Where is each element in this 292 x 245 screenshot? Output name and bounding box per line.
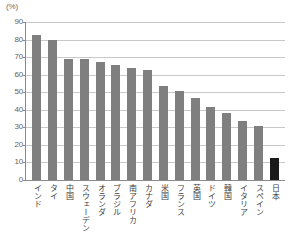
x-label-slot: 韓国: [219, 184, 235, 244]
x-axis-label-1: タイ: [49, 184, 57, 244]
bar-中国: [64, 59, 73, 180]
x-label-slot: 南アフリカ: [124, 184, 140, 244]
y-axis-unit-label: (%): [6, 2, 18, 12]
x-label-slot: スウェーデン: [76, 184, 92, 244]
x-axis-label-4: オランダ: [96, 184, 104, 244]
x-label-slot: ブラジル: [108, 184, 124, 244]
x-label-slot: オランダ: [92, 184, 108, 244]
y-tick-label-70: 70: [1, 53, 23, 61]
x-axis-label-14: スペイン: [254, 184, 262, 244]
x-axis-label-0: インド: [33, 184, 41, 244]
bar-米国: [159, 86, 168, 180]
x-axis-label-12: 韓国: [223, 184, 231, 244]
y-tick-label-40: 40: [1, 106, 23, 114]
bar-slot: [187, 22, 203, 180]
y-tick-label-60: 60: [1, 71, 23, 79]
bar-日本: [270, 158, 279, 180]
y-tick-label-30: 30: [1, 123, 23, 131]
x-axis-label-5: ブラジル: [112, 184, 120, 244]
bar-slot: [203, 22, 219, 180]
bar-slot: [140, 22, 156, 180]
y-tick-label-10: 10: [1, 158, 23, 166]
bar-ドイツ: [206, 107, 215, 180]
bar-slot: [45, 22, 61, 180]
bar-slot: [108, 22, 124, 180]
bar-イタリア: [238, 121, 247, 180]
x-label-slot: カナダ: [140, 184, 156, 244]
y-tick-label-80: 80: [1, 36, 23, 44]
bar-英国: [191, 98, 200, 181]
x-label-slot: ドイツ: [203, 184, 219, 244]
x-label-slot: 中国: [61, 184, 77, 244]
bar-slot: [29, 22, 45, 180]
x-axis-label-7: カナダ: [144, 184, 152, 244]
x-axis-label-11: ドイツ: [207, 184, 215, 244]
y-tick-label-0: 0: [1, 176, 23, 184]
x-axis-label-10: 英国: [191, 184, 199, 244]
y-tick-label-90: 90: [1, 18, 23, 26]
bar-chart: (%) 0102030405060708090 インドタイ中国スウェーデンオラン…: [0, 0, 292, 245]
x-axis-label-3: スウェーデン: [80, 184, 88, 244]
bar-slot: [92, 22, 108, 180]
bar-slot: [171, 22, 187, 180]
x-label-slot: スペイン: [250, 184, 266, 244]
y-tick-label-20: 20: [1, 141, 23, 149]
bars-group: [26, 22, 285, 180]
bar-slot: [76, 22, 92, 180]
bar-タイ: [48, 40, 57, 180]
x-axis-label-13: イタリア: [238, 184, 246, 244]
x-axis-label-6: 南アフリカ: [128, 184, 136, 244]
x-axis-label-8: 米国: [159, 184, 167, 244]
bar-ブラジル: [111, 65, 120, 180]
y-tick-mark-0: [23, 180, 26, 181]
x-axis-label-9: フランス: [175, 184, 183, 244]
x-label-slot: イタリア: [235, 184, 251, 244]
bar-スウェーデン: [80, 59, 89, 180]
x-label-slot: タイ: [45, 184, 61, 244]
bar-slot: [156, 22, 172, 180]
x-axis-labels: インドタイ中国スウェーデンオランダブラジル南アフリカカナダ米国フランス英国ドイツ…: [26, 184, 285, 244]
bar-slot: [266, 22, 282, 180]
bar-フランス: [175, 91, 184, 180]
bar-韓国: [222, 113, 231, 180]
bar-南アフリカ: [127, 68, 136, 180]
bar-slot: [124, 22, 140, 180]
x-label-slot: フランス: [171, 184, 187, 244]
bar-slot: [61, 22, 77, 180]
bar-slot: [235, 22, 251, 180]
x-axis-label-15: 日本: [270, 184, 278, 244]
bar-slot: [219, 22, 235, 180]
bar-slot: [250, 22, 266, 180]
bar-インド: [32, 35, 41, 180]
bar-スペイン: [254, 126, 263, 180]
x-label-slot: 英国: [187, 184, 203, 244]
y-tick-label-50: 50: [1, 88, 23, 96]
x-label-slot: 米国: [156, 184, 172, 244]
x-label-slot: 日本: [266, 184, 282, 244]
x-label-slot: インド: [29, 184, 45, 244]
x-axis-label-2: 中国: [65, 184, 73, 244]
gridline-0: [26, 180, 285, 181]
bar-カナダ: [143, 70, 152, 180]
bar-オランダ: [96, 62, 105, 181]
